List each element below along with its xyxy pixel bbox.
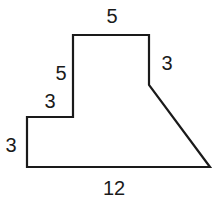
label-bottom-side: 12 [103, 177, 125, 199]
label-right-upper-side: 3 [161, 52, 172, 74]
label-step-side: 3 [44, 90, 55, 112]
label-left-upper-side: 5 [55, 62, 66, 84]
polygon-diagram: 5 3 5 3 3 12 [0, 0, 214, 213]
label-left-lower-side: 3 [5, 134, 16, 156]
label-top-side: 5 [106, 5, 117, 27]
